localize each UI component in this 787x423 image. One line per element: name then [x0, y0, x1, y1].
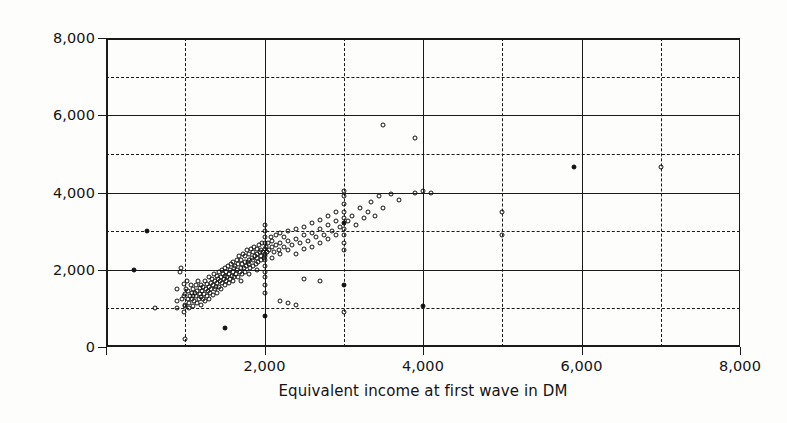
- data-point: [238, 279, 243, 284]
- data-point: [341, 188, 346, 193]
- data-point: [262, 283, 267, 288]
- data-point: [302, 246, 307, 251]
- gridline-h-6000: [106, 115, 740, 116]
- y-tick-label-8000: 8,000: [53, 30, 95, 46]
- data-point: [341, 227, 346, 232]
- data-point: [294, 302, 299, 307]
- data-point: [413, 136, 418, 141]
- data-point: [262, 263, 267, 268]
- data-point: [369, 200, 374, 205]
- data-point: [325, 236, 330, 241]
- x-tick-label-8000: 8,000: [719, 358, 761, 374]
- chart-page: 02,0004,0006,0008,0002,0004,0006,0008,00…: [0, 0, 787, 423]
- data-point: [377, 194, 382, 199]
- data-point: [290, 242, 295, 247]
- data-point: [341, 194, 346, 199]
- y-tick-8000: [98, 38, 106, 39]
- y-tick-2000: [98, 270, 106, 271]
- data-point: [179, 265, 184, 270]
- data-point: [317, 279, 322, 284]
- y-tick-label-0: 0: [86, 339, 95, 355]
- data-point: [361, 215, 366, 220]
- data-point: [357, 205, 362, 210]
- data-point: [131, 267, 136, 272]
- gridline-h-5000: [106, 154, 740, 155]
- data-point: [310, 221, 315, 226]
- data-point: [262, 275, 267, 280]
- data-point: [175, 287, 180, 292]
- data-point: [262, 223, 267, 228]
- data-point: [373, 213, 378, 218]
- gridline-v-6000: [582, 38, 583, 347]
- data-point: [381, 205, 386, 210]
- data-point: [389, 192, 394, 197]
- x-tick-6000: [582, 347, 583, 355]
- gridline-h-7000: [106, 77, 740, 78]
- data-point: [270, 256, 275, 261]
- y-tick-label-2000: 2,000: [53, 262, 95, 278]
- data-point: [302, 232, 307, 237]
- data-point: [298, 240, 303, 245]
- data-point: [365, 209, 370, 214]
- data-point: [278, 298, 283, 303]
- data-point: [175, 306, 180, 311]
- data-point: [341, 209, 346, 214]
- data-point: [262, 314, 267, 319]
- data-point: [345, 219, 350, 224]
- gridline-h-3000: [106, 231, 740, 232]
- data-point: [294, 227, 299, 232]
- data-point: [306, 238, 311, 243]
- data-point: [246, 271, 251, 276]
- gridline-v-7000: [661, 38, 662, 347]
- data-point: [658, 165, 663, 170]
- data-point: [500, 209, 505, 214]
- data-point: [397, 198, 402, 203]
- y-tick-label-6000: 6,000: [53, 107, 95, 123]
- x-tick-2000: [265, 347, 266, 355]
- data-point: [294, 252, 299, 257]
- data-point: [222, 325, 227, 330]
- data-point: [421, 188, 426, 193]
- data-point: [341, 240, 346, 245]
- data-point: [286, 248, 291, 253]
- data-point: [428, 190, 433, 195]
- data-point: [353, 223, 358, 228]
- data-point: [333, 232, 338, 237]
- data-point: [262, 269, 267, 274]
- data-point: [286, 300, 291, 305]
- data-point: [278, 252, 283, 257]
- data-point: [153, 305, 158, 310]
- data-point: [325, 223, 330, 228]
- data-point: [317, 227, 322, 232]
- data-point: [333, 209, 338, 214]
- data-point: [302, 225, 307, 230]
- data-point: [341, 202, 346, 207]
- data-point: [183, 337, 188, 342]
- data-point: [341, 310, 346, 315]
- data-point: [310, 244, 315, 249]
- data-point: [254, 267, 259, 272]
- data-point: [262, 290, 267, 295]
- data-point: [349, 213, 354, 218]
- x-axis-title: Equivalent income at first wave in DM: [106, 382, 740, 400]
- gridline-v-5000: [502, 38, 503, 347]
- data-point: [302, 277, 307, 282]
- data-point: [421, 304, 426, 309]
- data-point: [341, 248, 346, 253]
- x-tick-0: [106, 347, 107, 355]
- y-tick-4000: [98, 193, 106, 194]
- x-tick-label-4000: 4,000: [402, 358, 444, 374]
- data-point: [341, 283, 346, 288]
- data-point: [182, 310, 187, 315]
- data-point: [145, 229, 150, 234]
- x-tick-label-2000: 2,000: [243, 358, 285, 374]
- data-point: [341, 232, 346, 237]
- x-tick-4000: [423, 347, 424, 355]
- x-tick-8000: [740, 347, 741, 355]
- y-tick-label-4000: 4,000: [53, 185, 95, 201]
- y-tick-0: [98, 347, 106, 348]
- data-point: [262, 234, 267, 239]
- data-point: [317, 217, 322, 222]
- data-point: [500, 232, 505, 237]
- plot-area: 02,0004,0006,0008,0002,0004,0006,0008,00…: [106, 38, 740, 347]
